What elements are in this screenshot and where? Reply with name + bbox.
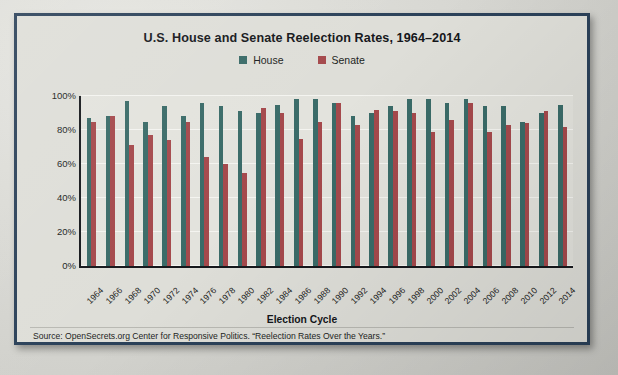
bar-group [459,96,478,266]
y-axis-tick-label: 100% [52,90,76,101]
bar-group [384,96,403,266]
bar-senate-1972[interactable] [167,140,172,266]
bar-group [402,96,421,266]
bar-group [327,96,346,266]
bar-group [515,96,534,266]
bar-group [120,96,139,266]
bar-group [195,96,214,266]
bar-group [176,96,195,266]
y-axis-tick-label: 40% [57,192,76,203]
bar-group [233,96,252,266]
bar-senate-1966[interactable] [110,116,115,266]
bar-senate-1964[interactable] [91,122,96,267]
square-swatch-icon [318,56,326,64]
bar-group [252,96,271,266]
bar-senate-1980[interactable] [242,173,247,267]
bar-group [534,96,553,266]
bar-senate-1998[interactable] [412,113,417,266]
bar-senate-1992[interactable] [355,125,360,266]
x-axis-title: Election Cycle [17,314,587,325]
bar-group [214,96,233,266]
square-swatch-icon [239,56,247,64]
bar-group [157,96,176,266]
bar-senate-1994[interactable] [374,110,379,266]
bar-group [440,96,459,266]
source-note: Source: OpenSecrets.org Center for Respo… [33,331,385,341]
chart-legend: House Senate [17,54,587,66]
legend-item-house[interactable]: House [239,54,283,66]
y-axis-tick-label: 20% [57,226,76,237]
bar-group [421,96,440,266]
bar-senate-1974[interactable] [186,122,191,267]
bar-senate-1986[interactable] [299,139,304,267]
source-divider [30,327,574,328]
bar-senate-1968[interactable] [129,145,134,266]
bar-senate-1976[interactable] [204,157,209,266]
bar-group [139,96,158,266]
chart-frame: U.S. House and Senate Reelection Rates, … [14,13,590,345]
bar-senate-2014[interactable] [563,127,568,266]
bar-group [270,96,289,266]
bar-group [101,96,120,266]
bar-group [553,96,572,266]
bar-senate-2008[interactable] [506,125,511,266]
bar-senate-1984[interactable] [280,113,285,266]
bar-senate-1978[interactable] [223,164,228,266]
legend-label-house: House [253,54,283,66]
plot-wrapper: 0%20%40%60%80%100% 196419661968197019721… [63,82,575,282]
bar-senate-1990[interactable] [336,103,341,266]
bar-group [346,96,365,266]
page-title: U.S. House and Senate Reelection Rates, … [17,31,587,45]
x-axis-tick-label: 2014 [556,285,577,306]
bar-senate-2002[interactable] [449,120,454,266]
bar-senate-2006[interactable] [487,132,492,266]
bar-senate-1970[interactable] [148,135,153,266]
bar-senate-1988[interactable] [318,122,323,267]
bar-series-container [81,96,573,266]
legend-item-senate[interactable]: Senate [318,54,365,66]
bar-group [365,96,384,266]
bar-senate-1982[interactable] [261,108,266,266]
bar-senate-2000[interactable] [431,132,436,266]
plot-area: 0%20%40%60%80%100% [79,96,573,268]
bar-group [82,96,101,266]
bar-group [497,96,516,266]
y-axis-tick-label: 80% [57,124,76,135]
legend-label-senate: Senate [332,54,365,66]
bar-senate-2004[interactable] [468,103,473,266]
y-axis-tick-label: 0% [62,260,76,271]
bar-group [478,96,497,266]
bar-senate-2010[interactable] [525,123,530,266]
scanned-page: U.S. House and Senate Reelection Rates, … [0,0,618,375]
bar-group [308,96,327,266]
bar-senate-2012[interactable] [544,111,549,266]
bar-group [289,96,308,266]
bar-senate-1996[interactable] [393,111,398,266]
y-axis-tick-label: 60% [57,158,76,169]
